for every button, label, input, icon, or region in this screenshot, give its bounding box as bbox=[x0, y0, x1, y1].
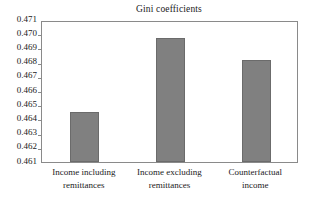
y-axis-tick-label: 0.464 bbox=[17, 114, 37, 123]
x-axis-tick-label-line: income bbox=[206, 179, 304, 192]
y-axis: 0.4710.4700.4690.4680.4670.4660.4650.464… bbox=[0, 21, 37, 163]
y-axis-tick-label: 0.468 bbox=[17, 57, 37, 66]
plot-area bbox=[41, 21, 298, 163]
bar bbox=[242, 60, 271, 162]
y-axis-tick-label: 0.462 bbox=[17, 142, 37, 151]
bar bbox=[156, 38, 185, 162]
x-axis-tick-label-line: remittances bbox=[35, 179, 133, 192]
x-axis: Income includingremittancesIncome exclud… bbox=[41, 166, 298, 202]
y-axis-tick-label: 0.463 bbox=[17, 128, 37, 137]
bar bbox=[70, 112, 99, 162]
x-axis-tick-label-line: Counterfactual bbox=[206, 166, 304, 179]
y-axis-tick-label: 0.470 bbox=[17, 29, 37, 38]
x-axis-tick-label-line: Income including bbox=[35, 166, 133, 179]
chart-title: Gini coefficients bbox=[40, 4, 298, 14]
x-axis-tick-label-line: Income excluding bbox=[121, 166, 219, 179]
y-axis-tick-label: 0.465 bbox=[17, 100, 37, 109]
y-axis-tick-label: 0.469 bbox=[17, 43, 37, 52]
x-axis-tick-label: Counterfactualincome bbox=[206, 166, 304, 191]
y-axis-tick-label: 0.466 bbox=[17, 86, 37, 95]
y-axis-tick-label: 0.461 bbox=[17, 157, 37, 166]
x-axis-tick-label-line: remittances bbox=[121, 179, 219, 192]
x-axis-tick-label: Income excludingremittances bbox=[121, 166, 219, 191]
y-axis-tick-label: 0.467 bbox=[17, 71, 37, 80]
x-axis-tick-label: Income includingremittances bbox=[35, 166, 133, 191]
gini-coefficients-bar-chart: Gini coefficients 0.4710.4700.4690.4680.… bbox=[0, 0, 313, 204]
y-axis-tick-label: 0.471 bbox=[17, 15, 37, 24]
